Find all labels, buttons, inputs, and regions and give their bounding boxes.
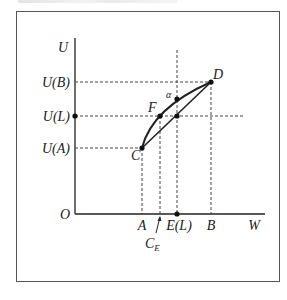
point-alpha: [174, 96, 179, 101]
origin-label: O: [60, 207, 70, 222]
label-c: C: [131, 148, 141, 163]
point-ul-axis: [72, 113, 77, 118]
tick-el: E(L): [165, 218, 192, 234]
ce-label: CE: [145, 236, 160, 253]
label-alpha: α: [166, 89, 172, 100]
tick-b: B: [207, 218, 216, 233]
utility-diagram: U U(B) U(L) U(A) O A E(L) B W CE C D F α: [0, 0, 287, 300]
label-d: D: [212, 67, 223, 82]
point-chord-mid: [174, 113, 179, 118]
y-axis-label: U: [58, 40, 69, 55]
tick-a: A: [137, 218, 147, 233]
tick-ua: U(A): [42, 141, 70, 157]
tick-ub: U(B): [42, 75, 70, 91]
x-axis-label: W: [248, 218, 261, 233]
label-f: F: [147, 100, 157, 115]
tick-ul: U(L): [43, 109, 71, 125]
point-f: [157, 113, 162, 118]
arrowhead-icon: [158, 216, 162, 221]
point-el-axis: [174, 211, 179, 216]
